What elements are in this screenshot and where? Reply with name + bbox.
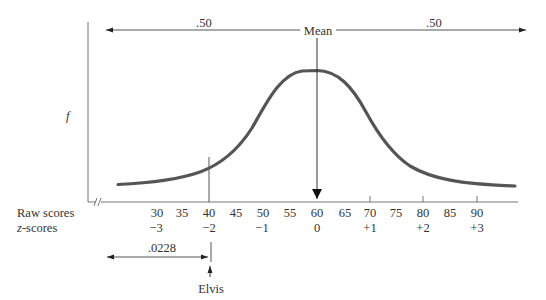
axis-break-icon [94, 198, 101, 206]
left-proportion-label: .50 [196, 16, 212, 30]
raw-score: 90 [471, 206, 484, 220]
raw-score: 40 [203, 206, 216, 220]
z-score: +2 [416, 221, 429, 235]
z-score: −2 [202, 221, 215, 235]
y-axis-label: f [66, 109, 71, 123]
z-score: −3 [149, 221, 162, 235]
tail-area-label: .0228 [148, 241, 176, 255]
z-score-labels: −3 −2 −1 0 +1 +2 +3 [149, 221, 483, 235]
normal-distribution-diagram: f .50 Mean .50 Raw scores z-scores 30 35… [0, 0, 546, 300]
elvis-label: Elvis [198, 282, 224, 296]
raw-score: 65 [339, 206, 352, 220]
raw-score: 80 [417, 206, 430, 220]
z-score: +3 [470, 221, 483, 235]
right-proportion-label: .50 [426, 16, 442, 30]
raw-score: 50 [257, 206, 270, 220]
raw-score-labels: 30 35 40 45 50 55 60 65 70 75 80 85 90 [151, 206, 484, 220]
raw-score: 30 [151, 206, 164, 220]
raw-score: 45 [230, 206, 243, 220]
z-score: −1 [255, 221, 268, 235]
x-axis [88, 196, 518, 206]
mean-label: Mean [304, 24, 333, 38]
raw-scores-label: Raw scores [17, 206, 74, 220]
raw-score: 75 [390, 206, 403, 220]
z-scores-label: z-scores [16, 221, 57, 235]
raw-score: 85 [444, 206, 457, 220]
raw-score: 55 [284, 206, 297, 220]
z-score: 0 [314, 221, 320, 235]
raw-score: 70 [364, 206, 377, 220]
raw-score: 35 [176, 206, 189, 220]
z-score: +1 [363, 221, 376, 235]
raw-score: 60 [311, 206, 324, 220]
